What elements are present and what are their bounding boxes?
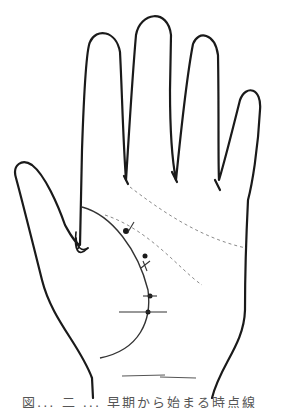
heart-line-guide [130, 187, 246, 248]
marker-tick-1 [128, 222, 134, 232]
figure-caption: 図... 二 ... 早期から始まる時点線 [22, 392, 284, 408]
head-line-guide [105, 215, 202, 285]
hand-outline [15, 16, 260, 398]
finger-gap-3 [215, 180, 220, 190]
life-line-markers [119, 222, 167, 315]
wrist-crease [122, 375, 196, 378]
life-line [82, 207, 149, 358]
marker-dot-2 [143, 254, 148, 259]
